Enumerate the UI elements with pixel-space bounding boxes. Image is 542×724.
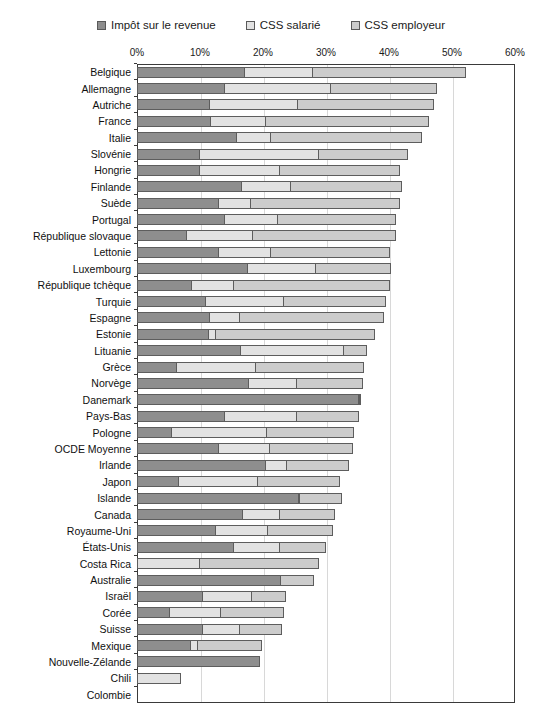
y-axis-tick [134, 210, 137, 211]
bar-row[interactable]: Autriche [137, 97, 515, 113]
bar-row[interactable]: Suisse [137, 621, 515, 637]
stacked-bar[interactable] [137, 542, 325, 553]
stacked-bar[interactable] [137, 116, 428, 127]
bar-segment-1 [137, 673, 181, 684]
y-axis-tick [134, 555, 137, 556]
y-axis-tick [134, 194, 137, 195]
bar-row[interactable]: Luxembourg [137, 261, 515, 277]
stacked-bar[interactable] [137, 198, 399, 209]
bar-row[interactable]: États-Unis [137, 539, 515, 555]
bar-row[interactable]: Pologne [137, 424, 515, 440]
bar-segment-1 [218, 198, 251, 209]
stacked-bar[interactable] [137, 132, 421, 143]
category-label: Slovénie [91, 149, 131, 160]
stacked-bar[interactable] [137, 83, 436, 94]
bar-segment-2 [299, 493, 341, 504]
stacked-bar[interactable] [137, 312, 383, 323]
stacked-bar[interactable] [137, 591, 285, 602]
bar-row[interactable]: Colombie [137, 687, 515, 703]
stacked-bar[interactable] [137, 165, 399, 176]
bar-row[interactable]: Norvège [137, 375, 515, 391]
bar-row[interactable]: Suède [137, 195, 515, 211]
stacked-bar[interactable] [137, 247, 389, 258]
y-axis-tick [134, 292, 137, 293]
bar-row[interactable]: Corée [137, 605, 515, 621]
bar-row[interactable]: Japon [137, 474, 515, 490]
category-label: Israël [105, 591, 131, 602]
stacked-bar[interactable] [137, 493, 341, 504]
bar-segment-1 [240, 345, 344, 356]
stacked-bar[interactable] [137, 607, 283, 618]
bar-row[interactable]: Finlande [137, 179, 515, 195]
y-axis-tick [134, 276, 137, 277]
stacked-bar[interactable] [137, 411, 358, 422]
bar-segment-0 [137, 116, 211, 127]
bar-row[interactable]: Irlande [137, 457, 515, 473]
bar-row[interactable]: Mexique [137, 637, 515, 653]
bar-segment-2 [280, 575, 315, 586]
bar-row[interactable]: Royaume-Uni [137, 523, 515, 539]
bar-segment-0 [137, 181, 242, 192]
stacked-bar[interactable] [137, 362, 363, 373]
stacked-bar[interactable] [137, 67, 465, 78]
stacked-bar[interactable] [137, 378, 362, 389]
bar-row[interactable]: Hongrie [137, 162, 515, 178]
bar-row[interactable]: Turquie [137, 293, 515, 309]
stacked-bar[interactable] [137, 280, 389, 291]
stacked-bar[interactable] [137, 673, 180, 684]
category-label: Royaume-Uni [67, 525, 131, 536]
stacked-bar[interactable] [137, 394, 360, 405]
category-label: Danemark [83, 394, 131, 405]
stacked-bar[interactable] [137, 329, 374, 340]
bar-row[interactable]: Slovénie [137, 146, 515, 162]
bar-rows: BelgiqueAllemagneAutricheFranceItalieSlo… [137, 64, 515, 703]
bar-row[interactable]: République tchèque [137, 277, 515, 293]
stacked-bar[interactable] [137, 230, 395, 241]
y-axis-tick [134, 686, 137, 687]
stacked-bar[interactable] [137, 149, 407, 160]
bar-row[interactable]: Italie [137, 130, 515, 146]
bar-row[interactable]: Allemagne [137, 80, 515, 96]
stacked-bar[interactable] [137, 476, 339, 487]
bar-row[interactable]: Canada [137, 506, 515, 522]
stacked-bar[interactable] [137, 427, 353, 438]
stacked-bar[interactable] [137, 296, 385, 307]
stacked-bar[interactable] [137, 181, 401, 192]
stacked-bar[interactable] [137, 558, 318, 569]
bar-row[interactable]: Grèce [137, 359, 515, 375]
bar-row[interactable]: Chili [137, 670, 515, 686]
stacked-bar[interactable] [137, 509, 334, 520]
bar-row[interactable]: Islande [137, 490, 515, 506]
bar-row[interactable]: Lituanie [137, 343, 515, 359]
stacked-bar[interactable] [137, 624, 281, 635]
stacked-bar[interactable] [137, 443, 352, 454]
stacked-bar[interactable] [137, 263, 390, 274]
bar-row[interactable]: Espagne [137, 310, 515, 326]
stacked-bar[interactable] [137, 460, 348, 471]
stacked-bar[interactable] [137, 99, 433, 110]
bar-row[interactable]: France [137, 113, 515, 129]
stacked-bar[interactable] [137, 214, 395, 225]
stacked-bar[interactable] [137, 345, 366, 356]
stacked-bar[interactable] [137, 656, 259, 667]
bar-row[interactable]: Pays-Bas [137, 408, 515, 424]
bar-row[interactable]: Nouvelle-Zélande [137, 654, 515, 670]
bar-row[interactable]: République slovaque [137, 228, 515, 244]
category-label: Costa Rica [80, 558, 131, 569]
stacked-bar[interactable] [137, 640, 261, 651]
bar-row[interactable]: Australie [137, 572, 515, 588]
bar-row[interactable]: Danemark [137, 392, 515, 408]
y-axis-tick [134, 79, 137, 80]
stacked-bar[interactable] [137, 525, 332, 536]
bar-row[interactable]: OCDE Moyenne [137, 441, 515, 457]
bar-segment-2 [255, 362, 364, 373]
bar-row[interactable]: Lettonie [137, 244, 515, 260]
y-axis-tick [134, 456, 137, 457]
stacked-bar[interactable] [137, 575, 313, 586]
bar-row[interactable]: Portugal [137, 211, 515, 227]
bar-row[interactable]: Estonie [137, 326, 515, 342]
bar-row[interactable]: Israël [137, 588, 515, 604]
bar-row[interactable]: Costa Rica [137, 556, 515, 572]
category-label: Irlande [99, 460, 131, 471]
bar-row[interactable]: Belgique [137, 64, 515, 80]
